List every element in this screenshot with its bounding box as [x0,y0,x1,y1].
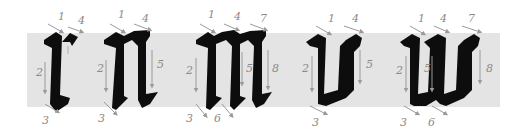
label-m-2: 2 [185,64,193,77]
glyph-w [400,34,480,106]
label-m-8: 8 [272,62,279,75]
label-r-1: 1 [58,10,65,23]
glyph-m [196,30,272,110]
label-w-7: 7 [468,12,475,25]
label-v-2: 2 [301,62,309,75]
label-m-5: 5 [246,62,253,75]
label-v-3: 3 [312,116,319,129]
label-m-1: 1 [208,8,215,21]
label-w-5: 5 [424,62,431,75]
letter-n: 1 4 2 5 3 [96,8,164,125]
glyph-n [104,30,158,110]
label-w-2: 2 [395,64,403,77]
stroke-order-diagram: 1 4 2 3 1 4 2 5 3 1 4 7 2 5 8 3 6 [0,0,524,139]
label-m-4: 4 [233,10,241,23]
label-w-1: 1 [418,12,425,25]
label-w-3: 3 [400,116,407,129]
label-n-5: 5 [157,58,164,71]
label-v-5: 5 [366,58,373,71]
label-m-3: 3 [186,112,193,125]
label-r-4: 4 [77,14,85,27]
label-w-8: 8 [486,62,493,75]
letter-r: 1 4 2 3 [35,10,85,127]
label-m-7: 7 [260,12,267,25]
letter-m: 1 4 7 2 5 8 3 6 [185,8,279,125]
label-m-6: 6 [214,112,221,125]
label-v-4: 4 [351,12,359,25]
glyph-r-flag [62,33,78,46]
letter-v: 1 4 2 5 3 [301,12,373,129]
glyph-v [306,34,362,106]
letter-w: 1 4 7 2 5 8 3 6 [395,12,493,129]
label-n-4: 4 [141,12,149,25]
glyph-r-stem [44,32,70,112]
label-w-4: 4 [439,12,447,25]
label-v-1: 1 [328,12,335,25]
label-n-2: 2 [96,62,104,75]
label-w-6: 6 [428,116,435,129]
label-r-2: 2 [35,66,43,79]
label-n-3: 3 [98,112,105,125]
label-n-1: 1 [118,8,125,21]
label-r-3: 3 [42,114,49,127]
